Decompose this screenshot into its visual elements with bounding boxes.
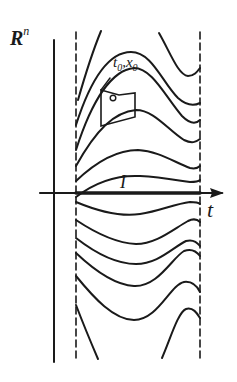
space-label: Rn <box>10 26 29 50</box>
initial-set-region <box>101 90 135 126</box>
space-label-letter: R <box>10 27 23 49</box>
initial-point-marker <box>110 95 116 101</box>
time-axis-label: t <box>207 197 213 223</box>
initial-state-symbol: x <box>126 54 133 70</box>
interval-label: I <box>120 172 126 193</box>
initial-point-label: t0,x0 <box>113 54 138 73</box>
space-dimension-superscript: n <box>23 24 29 38</box>
initial-state-subscript: 0 <box>133 62 138 73</box>
integral-curves <box>76 31 200 359</box>
